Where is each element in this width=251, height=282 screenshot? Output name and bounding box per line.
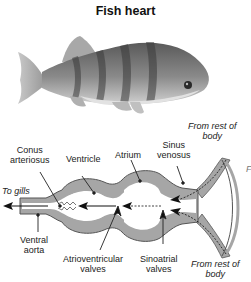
label-sinus-venosus: Sinus venosus xyxy=(157,140,191,160)
label-line: arteriosus xyxy=(10,155,50,165)
label-line: Atrioventricular xyxy=(63,254,123,264)
edge-text-fragment: F xyxy=(246,164,251,174)
label-line: venosus xyxy=(157,150,191,160)
label-line: aorta xyxy=(20,245,48,255)
label-line: From rest of xyxy=(191,259,240,269)
label-line: Sinoatrial xyxy=(140,254,178,264)
label-line: body xyxy=(188,131,237,141)
label-line: Ventral xyxy=(20,235,48,245)
label-ventral-aorta: Ventral aorta xyxy=(20,235,48,255)
label-line: Sinus xyxy=(157,140,191,150)
label-from-rest-of-body-top: From rest of body xyxy=(188,121,237,141)
label-from-rest-of-body-bottom: From rest of body xyxy=(191,259,240,279)
fish-illustration xyxy=(18,36,209,114)
label-atrioventricular-valves: Atrioventricular valves xyxy=(63,254,123,274)
label-line: valves xyxy=(63,264,123,274)
label-atrium: Atrium xyxy=(115,150,141,160)
label-ventricle: Ventricle xyxy=(66,154,101,164)
label-to-gills: To gills xyxy=(2,186,30,196)
label-line: Conus xyxy=(10,145,50,155)
label-sinoatrial-valves: Sinoatrial valves xyxy=(140,254,178,274)
label-line: From rest of xyxy=(188,121,237,131)
label-line: valves xyxy=(140,264,178,274)
label-conus-arteriosus: Conus arteriosus xyxy=(10,145,50,165)
label-line: body xyxy=(191,269,240,279)
